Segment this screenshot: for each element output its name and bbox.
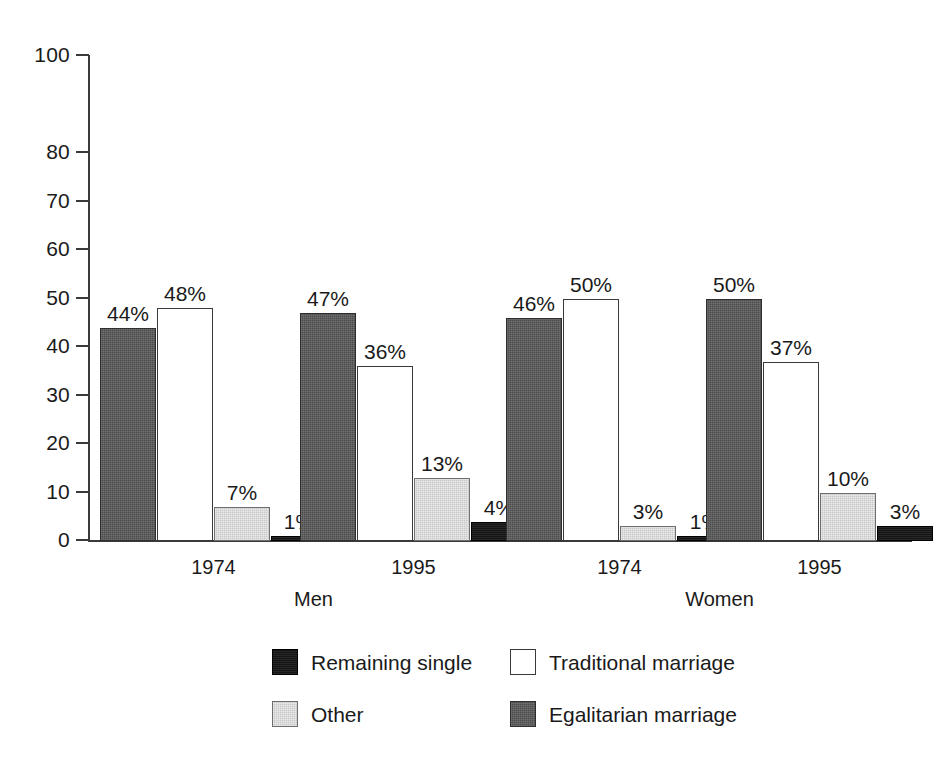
y-axis-tick-label: 40: [0, 335, 70, 356]
bar-value-label: 3%: [633, 501, 663, 522]
bar-value-label: 50%: [570, 274, 612, 295]
bar-value-label: 3%: [890, 501, 920, 522]
x-axis-tick-label: 1995: [706, 556, 933, 578]
bar-value-label: 36%: [364, 341, 406, 362]
y-axis-tick-label: 70: [0, 190, 70, 211]
bar-group: 44%48%7%1%: [100, 56, 327, 541]
legend-label: Remaining single: [311, 651, 472, 674]
bar-value-label: 10%: [827, 468, 869, 489]
bar-egalitarian[interactable]: 50%: [706, 299, 762, 542]
legend-swatch-other-icon: [272, 701, 298, 727]
bar-egalitarian[interactable]: 46%: [506, 318, 562, 541]
bar-egalitarian[interactable]: 44%: [100, 328, 156, 541]
bar-value-label: 7%: [227, 482, 257, 503]
bar-other[interactable]: 13%: [414, 478, 470, 541]
y-axis-tick-label: 80: [0, 141, 70, 162]
bar-value-label: 47%: [307, 288, 349, 309]
y-axis-tick-label-text: 50: [0, 287, 70, 308]
y-axis-tick-label-text: 30: [0, 384, 70, 405]
y-axis-tick-label-text: 80: [0, 141, 70, 162]
y-axis-tick-label: 100: [0, 44, 70, 65]
legend-swatch-traditional-icon: [510, 649, 536, 675]
y-axis-tick-label-text: 10: [0, 481, 70, 502]
bar-traditional[interactable]: 48%: [157, 308, 213, 541]
legend-swatch-egalitarian-icon: [510, 701, 536, 727]
bar-group: 47%36%13%4%: [300, 56, 527, 541]
x-axis-group-label: Women: [506, 588, 933, 610]
y-axis-tick-label: 20: [0, 432, 70, 453]
x-axis-tick-label: 1974: [100, 556, 327, 578]
y-axis-tick-label-text: 0: [0, 529, 70, 550]
bar-value-label: 37%: [770, 337, 812, 358]
legend-label: Egalitarian marriage: [549, 703, 737, 726]
bar-single[interactable]: 3%: [877, 526, 933, 541]
bar-value-label: 48%: [164, 283, 206, 304]
bar-chart: 01020304050607080100 44%48%7%1%47%36%13%…: [0, 0, 947, 761]
bar-traditional[interactable]: 36%: [357, 366, 413, 541]
legend-item-traditional[interactable]: Traditional marriage: [510, 649, 832, 675]
legend-item-egalitarian[interactable]: Egalitarian marriage: [510, 701, 832, 727]
legend-label: Other: [311, 703, 364, 726]
bar-other[interactable]: 7%: [214, 507, 270, 541]
bar-group: 46%50%3%1%: [506, 56, 733, 541]
y-axis-tick-label-text: 20: [0, 432, 70, 453]
legend-item-other[interactable]: Other: [272, 701, 510, 727]
bar-value-label: 46%: [513, 293, 555, 314]
y-axis-tick-label: 30: [0, 384, 70, 405]
legend-label: Traditional marriage: [549, 651, 735, 674]
bar-traditional[interactable]: 37%: [763, 362, 819, 541]
y-axis-tick-label-text: 100: [0, 44, 70, 65]
x-axis-tick-label: 1995: [300, 556, 527, 578]
bar-other[interactable]: 10%: [820, 493, 876, 542]
y-axis-tick-label: 0: [0, 529, 70, 550]
y-axis-tick-label: 10: [0, 481, 70, 502]
bar-value-label: 44%: [107, 303, 149, 324]
y-axis-tick-label-text: 40: [0, 335, 70, 356]
y-axis-tick-label-text: 70: [0, 190, 70, 211]
bar-group: 50%37%10%3%: [706, 56, 933, 541]
x-axis-group-label: Men: [100, 588, 527, 610]
y-axis-tick-label-text: 60: [0, 238, 70, 259]
plot-area: 44%48%7%1%47%36%13%4%46%50%3%1%50%37%10%…: [88, 55, 912, 541]
bar-traditional[interactable]: 50%: [563, 299, 619, 542]
bar-value-label: 50%: [713, 274, 755, 295]
bar-egalitarian[interactable]: 47%: [300, 313, 356, 541]
legend-swatch-single-icon: [272, 649, 298, 675]
bar-other[interactable]: 3%: [620, 526, 676, 541]
chart-legend: Remaining singleTraditional marriageOthe…: [272, 636, 832, 740]
bar-value-label: 13%: [421, 453, 463, 474]
y-axis-tick-label: 60: [0, 238, 70, 259]
x-axis-tick-label: 1974: [506, 556, 733, 578]
legend-item-single[interactable]: Remaining single: [272, 649, 510, 675]
y-axis-tick-label: 50: [0, 287, 70, 308]
